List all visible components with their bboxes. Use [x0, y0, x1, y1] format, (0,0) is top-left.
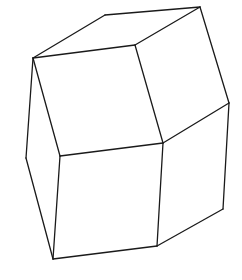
- edge-right_mid-bottom_right: [223, 103, 229, 209]
- edge-left_top-top_back: [33, 15, 105, 58]
- edge-top_center-top_right: [135, 7, 200, 45]
- edge-center-right_mid: [163, 103, 229, 143]
- edge-top_right-right_mid: [200, 7, 229, 103]
- edge-left_top-top_center: [33, 45, 135, 58]
- edge-top_back-top_right: [105, 7, 200, 15]
- edge-top_center-center: [135, 45, 163, 143]
- edge-bottom_center-bottom_right: [157, 209, 223, 246]
- edge-left_center-bottom_left: [53, 156, 60, 259]
- edge-bottom_left-bottom_center: [53, 246, 157, 259]
- polyhedron-drawing: [0, 0, 242, 280]
- edge-left_mid-bottom_left: [26, 158, 53, 259]
- edge-left_center-center: [60, 143, 163, 156]
- edge-center-bottom_center: [157, 143, 163, 246]
- edge-left_top-left_mid: [26, 58, 33, 158]
- edge-left_top-left_center: [33, 58, 60, 156]
